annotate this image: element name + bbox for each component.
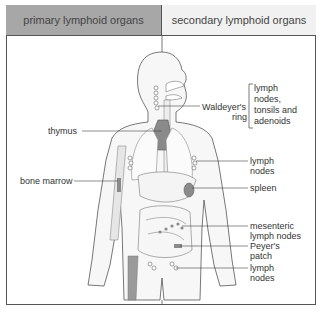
waldeyers-ring-label-line2: ring: [232, 112, 247, 122]
inguinal-label-line1: lymph: [250, 263, 275, 273]
waldeyers-ring-label: Waldeyer's: [202, 102, 246, 112]
spleen-icon: [184, 183, 194, 197]
human-body-illustration: [0, 0, 323, 313]
spleen-label: spleen: [250, 183, 277, 193]
waldeyer-desc-line1: lymph: [254, 83, 297, 94]
axillary-label-line2: nodes: [250, 166, 275, 176]
inguinal-lymph-nodes-label: lymph nodes: [250, 263, 275, 283]
peyers-patch-label: Peyer's patch: [250, 241, 280, 261]
thymus-label: thymus: [48, 126, 77, 136]
mesenteric-lymph-nodes-label: mesenteric lymph nodes: [250, 221, 301, 241]
peyers-label-line1: Peyer's: [250, 241, 280, 251]
waldeyer-desc-line3: tonsils and: [254, 105, 297, 116]
waldeyers-label-line1: Waldeyer's: [202, 102, 246, 112]
axillary-lymph-nodes-label: lymph nodes: [250, 156, 275, 176]
waldeyer-desc-line2: nodes,: [254, 94, 297, 105]
peyers-label-line2: patch: [250, 251, 280, 261]
bracket-icon: [248, 83, 254, 129]
bone-marrow-label: bone marrow: [20, 176, 73, 186]
femur-bone-icon: [128, 256, 138, 300]
mesenteric-label-line1: mesenteric: [250, 221, 301, 231]
inguinal-label-line2: nodes: [250, 273, 275, 283]
mesenteric-label-line2: lymph nodes: [250, 231, 301, 241]
waldeyers-description: lymph nodes, tonsils and adenoids: [254, 83, 297, 127]
waldeyer-desc-line4: adenoids: [254, 116, 297, 127]
axillary-label-line1: lymph: [250, 156, 275, 166]
